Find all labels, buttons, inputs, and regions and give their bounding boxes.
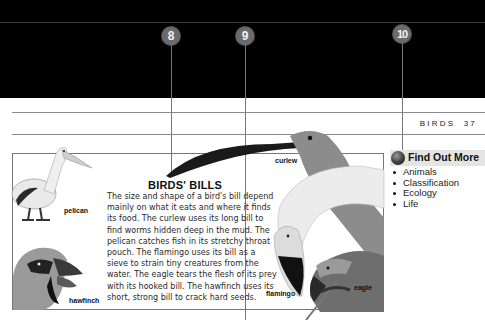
label-flamingo: flamingo xyxy=(266,290,295,297)
page-number: 37 xyxy=(464,119,477,128)
running-head-section: BIRDS xyxy=(420,119,455,128)
find-out-more-title: Find Out More xyxy=(408,151,479,163)
label-pelican: pelican xyxy=(64,207,88,214)
callout-marker-9[interactable]: 9 xyxy=(236,27,254,45)
globe-icon xyxy=(391,151,405,165)
label-hawfinch: hawfinch xyxy=(69,297,99,304)
top-band xyxy=(0,0,485,98)
link-life[interactable]: Life xyxy=(391,199,459,210)
link-animals[interactable]: Animals xyxy=(391,167,459,178)
find-out-more-header: Find Out More xyxy=(390,150,485,166)
find-out-more-links: Animals Classification Ecology Life xyxy=(391,167,459,209)
label-curlew: curlew xyxy=(275,157,297,164)
label-eagle: eagle xyxy=(354,284,372,291)
running-head: BIRDS 37 xyxy=(420,119,477,128)
callout-marker-8[interactable]: 8 xyxy=(162,27,180,45)
page-rule-top xyxy=(12,112,485,113)
callout-marker-10[interactable]: 10 xyxy=(393,25,411,43)
top-hairline xyxy=(0,22,485,23)
link-ecology[interactable]: Ecology xyxy=(391,188,459,199)
leader-line-10 xyxy=(402,43,403,153)
